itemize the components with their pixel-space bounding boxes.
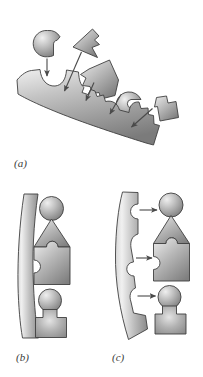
notched-sphere-ligand xyxy=(33,30,60,56)
panel-b-label: (b) xyxy=(16,352,29,363)
panel-b-graphic xyxy=(0,178,102,358)
smooth-receptor-bar xyxy=(18,194,39,338)
panel-a-label: (a) xyxy=(14,158,27,169)
panel-c-label: (c) xyxy=(112,352,124,363)
panel-a xyxy=(0,0,203,160)
block-piece xyxy=(155,306,186,334)
t-block-ligand xyxy=(155,96,179,121)
block-piece xyxy=(36,310,67,338)
sphere-piece xyxy=(159,193,183,217)
panel-c-graphic xyxy=(100,178,203,358)
panel-a-graphic xyxy=(0,0,203,165)
panel-c xyxy=(100,178,203,358)
arrowhead-ligand xyxy=(73,29,100,58)
sphere-piece xyxy=(40,197,64,221)
sphere-piece-lower xyxy=(158,286,181,309)
puzzle-square-piece xyxy=(154,238,190,281)
figure-root: (a) xyxy=(0,0,203,377)
puzzle-square-ligand xyxy=(81,60,119,99)
notched-curved-receptor-bar xyxy=(115,192,147,340)
panel-b xyxy=(0,178,102,358)
sphere-piece-lower xyxy=(39,289,62,312)
puzzle-square-piece xyxy=(34,241,70,284)
